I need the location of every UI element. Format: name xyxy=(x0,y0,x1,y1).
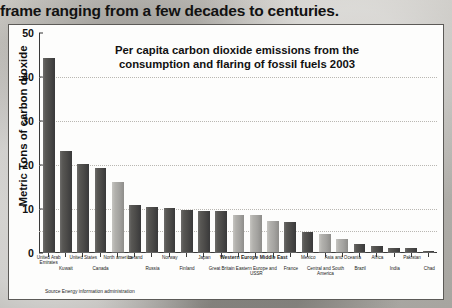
bar-slot xyxy=(299,33,316,252)
bar xyxy=(336,239,348,252)
bar-slot xyxy=(57,33,74,252)
bar-slot xyxy=(282,33,299,252)
bar xyxy=(164,208,176,252)
bar-slot xyxy=(126,33,143,252)
bar xyxy=(405,248,417,252)
y-tick-label-10: 10 xyxy=(22,203,39,215)
x-axis-label: Chad xyxy=(408,266,450,271)
chart-source: Source Energy information administration xyxy=(45,289,135,294)
bar-slot xyxy=(161,33,178,252)
bar xyxy=(43,58,55,252)
bar xyxy=(250,215,262,252)
bar-slot xyxy=(144,33,161,252)
bar xyxy=(129,205,141,252)
bar-slot xyxy=(40,33,57,252)
bar-slot xyxy=(385,33,402,252)
plot-area: 01020304050 xyxy=(39,33,437,253)
bar-slot xyxy=(195,33,212,252)
bar-slot xyxy=(403,33,420,252)
chart-card: Per capita carbon dioxide emissions from… xyxy=(8,24,444,300)
bar xyxy=(181,210,193,252)
bar-slot xyxy=(230,33,247,252)
bar xyxy=(371,246,383,252)
y-tick-mark-0 xyxy=(39,253,43,254)
bar-slot xyxy=(264,33,281,252)
bar-slot xyxy=(247,33,264,252)
y-tick-label-20: 20 xyxy=(22,159,39,171)
bar xyxy=(388,248,400,252)
bar xyxy=(198,211,210,252)
bar xyxy=(423,251,435,252)
bar-series xyxy=(40,33,437,252)
bar-slot xyxy=(368,33,385,252)
bar-slot xyxy=(334,33,351,252)
bar xyxy=(77,164,89,252)
y-tick-label-50: 50 xyxy=(22,27,39,39)
bar-slot xyxy=(92,33,109,252)
bar-slot xyxy=(109,33,126,252)
bar-slot xyxy=(178,33,195,252)
bar xyxy=(302,232,314,252)
bar xyxy=(267,221,279,252)
page-headline: frame ranging from a few decades to cent… xyxy=(0,0,452,22)
x-axis-label: Canada xyxy=(80,266,122,271)
bar xyxy=(354,244,366,252)
bar-slot xyxy=(75,33,92,252)
bar xyxy=(319,234,331,252)
bar xyxy=(233,215,245,252)
x-axis-label: Pakistan xyxy=(391,255,433,260)
bar-slot xyxy=(213,33,230,252)
bar xyxy=(146,207,158,252)
y-tick-label-30: 30 xyxy=(22,115,39,127)
bar xyxy=(95,168,107,252)
bar-slot xyxy=(420,33,437,252)
bar-slot xyxy=(316,33,333,252)
bar xyxy=(60,151,72,252)
bar xyxy=(215,211,227,252)
y-tick-label-40: 40 xyxy=(22,71,39,83)
bar-slot xyxy=(351,33,368,252)
bar xyxy=(112,182,124,252)
bar xyxy=(284,222,296,252)
